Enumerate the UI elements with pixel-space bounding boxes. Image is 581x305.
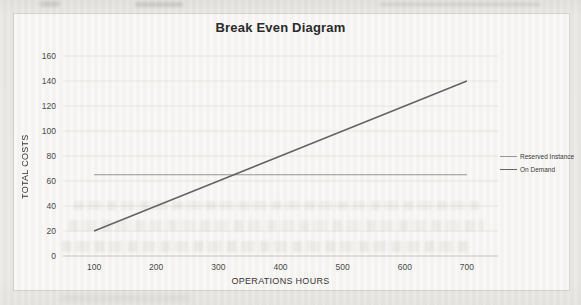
x-tick-label: 600 [398,262,412,272]
legend-label-reserved-instance: Reserved Instance [520,153,574,160]
x-tick-label: 700 [460,262,474,272]
x-tick-label: 500 [336,262,350,272]
y-tick-label: 160 [42,51,56,61]
legend: Reserved Instance On Demand [500,153,574,179]
plot-svg [63,56,498,256]
y-tick-label: 80 [47,151,56,161]
chart-title: Break Even Diagram [63,20,498,35]
y-tick-label: 20 [47,226,56,236]
legend-line-sample-reserved-instance [500,156,517,157]
scan-artifact [380,3,540,6]
y-tick-label: 140 [42,76,56,86]
legend-item-reserved-instance: Reserved Instance [500,153,574,160]
y-tick-label: 40 [47,201,56,211]
x-tick-label: 300 [211,262,225,272]
legend-line-sample-on-demand [500,169,517,170]
x-tick-label: 200 [149,262,163,272]
y-axis-title: TOTAL COSTS [20,92,33,242]
scan-artifact [60,295,190,301]
y-tick-label: 100 [42,126,56,136]
x-tick-label: 100 [87,262,101,272]
plot-area: 020406080100120140160 100200300400500600… [63,56,498,256]
legend-label-on-demand: On Demand [520,166,555,173]
x-axis-title: OPERATIONS HOURS [63,276,498,286]
y-tick-label: 60 [47,176,56,186]
y-tick-label: 120 [42,101,56,111]
y-tick-label: 0 [51,251,56,261]
chart-frame: Break Even Diagram TOTAL COSTS 020406080… [13,13,570,291]
scan-artifact [40,1,60,7]
x-tick-label: 400 [273,262,287,272]
legend-item-on-demand: On Demand [500,166,574,173]
scanned-paper-background: Break Even Diagram TOTAL COSTS 020406080… [0,0,581,305]
scan-artifact [135,2,183,7]
